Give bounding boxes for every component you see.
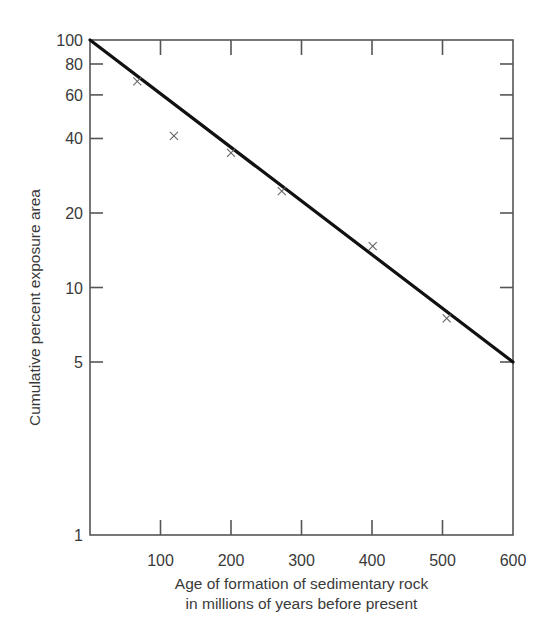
y-tick-label: 100: [56, 32, 83, 49]
y-tick-label: 1: [74, 527, 83, 544]
x-tick-label: 400: [359, 552, 386, 569]
data-point-x-marker: [227, 149, 235, 157]
data-point-x-marker: [278, 187, 286, 195]
scatter-series: [133, 77, 450, 322]
y-tick-label: 5: [74, 354, 83, 371]
fitted-line-series: [90, 40, 513, 362]
y-axis-ticks: 151020406080100: [56, 32, 513, 544]
y-tick-label: 20: [65, 205, 83, 222]
data-point-x-marker: [443, 314, 451, 322]
x-tick-label: 300: [288, 552, 315, 569]
x-tick-label: 100: [147, 552, 174, 569]
x-axis-ticks: 100200300400500600: [147, 40, 526, 569]
chart: 100200300400500600 151020406080100 Age o…: [0, 0, 554, 643]
plot-frame: [90, 40, 513, 535]
x-axis-label-line-2: in millions of years before present: [186, 595, 418, 612]
data-point-x-marker: [170, 132, 178, 140]
data-point-x-marker: [369, 242, 377, 250]
x-tick-label: 600: [500, 552, 527, 569]
y-tick-label: 80: [65, 56, 83, 73]
y-tick-label: 60: [65, 87, 83, 104]
plot-area-border: [90, 40, 513, 535]
data-point-x-marker: [133, 77, 141, 85]
fitted-line: [90, 40, 513, 362]
x-axis-label-line-1: Age of formation of sedimentary rock: [175, 575, 429, 592]
x-axis-label: Age of formation of sedimentary rock in …: [175, 575, 429, 612]
x-tick-label: 500: [429, 552, 456, 569]
x-tick-label: 200: [218, 552, 245, 569]
y-tick-label: 10: [65, 280, 83, 297]
y-tick-label: 40: [65, 130, 83, 147]
y-axis-label: Cumulative percent exposure area: [26, 189, 43, 426]
